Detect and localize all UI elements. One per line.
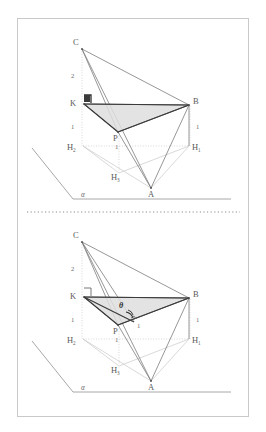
line-h2-h3 — [83, 146, 119, 173]
vertex-label-k: K — [70, 291, 77, 301]
edge-c-b — [82, 242, 189, 298]
dot-k — [83, 103, 85, 105]
geometry-diagram-top: C K B P A H 1 H 2 H 3 2 1 1 1 α — [32, 37, 231, 199]
vertex-label-b: B — [193, 96, 199, 106]
vertex-label-p: P — [113, 133, 118, 143]
plane-alpha-label: α — [81, 384, 85, 392]
vertex-label-c: C — [73, 230, 79, 240]
measure-label-ck: 2 — [71, 72, 74, 79]
vertex-label-h1-sub: 1 — [198, 340, 201, 346]
edge-p-a — [118, 325, 151, 381]
shaded-triangle-kbp — [84, 104, 189, 132]
line-a-h1 — [151, 146, 189, 188]
dot-c — [81, 48, 83, 50]
vertex-label-h3-sub: 3 — [117, 177, 120, 183]
line-h3-h1 — [119, 339, 189, 366]
measure-label-p-mid: 1 — [137, 322, 140, 329]
dot-c — [81, 241, 83, 243]
measure-label-bh1: 1 — [196, 316, 199, 323]
dot-k — [83, 296, 85, 298]
vertex-label-k: K — [70, 98, 77, 108]
line-a-h1 — [151, 339, 189, 381]
geometry-diagram-bottom: C K B P A H 1 H 2 H 3 2 1 1 1 1 θ α — [32, 230, 231, 392]
vertex-label-a: A — [148, 382, 155, 392]
measure-label-kh2: 1 — [71, 123, 74, 130]
plane-left-edge — [32, 341, 73, 392]
line-h2-h3 — [83, 339, 119, 366]
dot-b — [188, 297, 190, 299]
vertex-label-c: C — [73, 37, 79, 47]
right-angle-marker-k-fill — [84, 95, 90, 102]
base-dashed-lines-bottom — [83, 339, 189, 381]
vertex-label-h1-sub: 1 — [198, 147, 201, 153]
vertex-label-h2-sub: 2 — [73, 147, 76, 153]
line-h3-h1 — [119, 146, 189, 173]
plane-alpha-label: α — [81, 191, 85, 199]
base-dashed-lines-top — [83, 146, 189, 188]
measure-label-kh2: 1 — [71, 316, 74, 323]
geometry-figure: C K B P A H 1 H 2 H 3 2 1 1 1 α — [0, 0, 266, 432]
measure-label-h2h3: 1 — [115, 143, 118, 150]
vertex-label-p: P — [113, 326, 118, 336]
edge-p-a — [118, 132, 151, 188]
dot-b — [188, 104, 190, 106]
edge-c-b — [82, 49, 189, 105]
vertex-label-h2-sub: 2 — [73, 340, 76, 346]
shaded-triangle-kbp — [84, 297, 189, 325]
page-root: C K B P A H 1 H 2 H 3 2 1 1 1 α — [0, 0, 266, 432]
measure-label-bh1: 1 — [196, 123, 199, 130]
right-angle-marker-k — [84, 288, 91, 296]
vertex-label-a: A — [148, 189, 155, 199]
vertex-label-b: B — [193, 289, 199, 299]
measure-label-h2h3: 1 — [115, 336, 118, 343]
plane-left-edge — [32, 148, 73, 199]
vertex-label-h3-sub: 3 — [117, 370, 120, 376]
measure-label-ck: 2 — [71, 265, 74, 272]
